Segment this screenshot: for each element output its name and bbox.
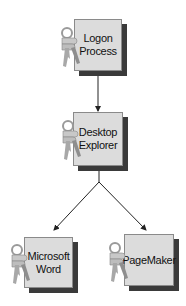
edge-desktop-word	[54, 182, 99, 230]
node-label-line: Microsoft	[28, 250, 70, 263]
keys-icon	[9, 243, 31, 287]
pagemaker-box: PageMaker	[124, 234, 174, 286]
keys-icon	[60, 119, 82, 163]
keys-icon	[59, 26, 81, 70]
node-label-line: Desktop	[79, 126, 118, 139]
node-label-line: PageMaker	[122, 254, 176, 267]
node-label-line: Word	[28, 263, 70, 276]
logon-process-box: Logon Process	[74, 19, 122, 71]
node-label-line: Process	[79, 45, 117, 58]
node-label-line: Logon	[79, 32, 117, 45]
keys-icon	[107, 241, 129, 285]
microsoft-word-box: Microsoft Word	[24, 237, 73, 288]
edge-desktop-pagemaker	[99, 182, 146, 230]
node-label-line: Explorer	[79, 139, 118, 152]
